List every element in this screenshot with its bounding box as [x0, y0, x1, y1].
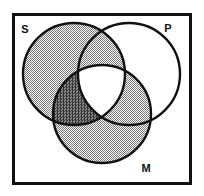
label-m: M: [141, 162, 150, 174]
label-p: P: [164, 22, 171, 34]
venn-diagram-figure: S P M: [0, 0, 204, 196]
venn-diagram-canvas: S P M: [0, 0, 204, 196]
label-s: S: [21, 23, 28, 35]
